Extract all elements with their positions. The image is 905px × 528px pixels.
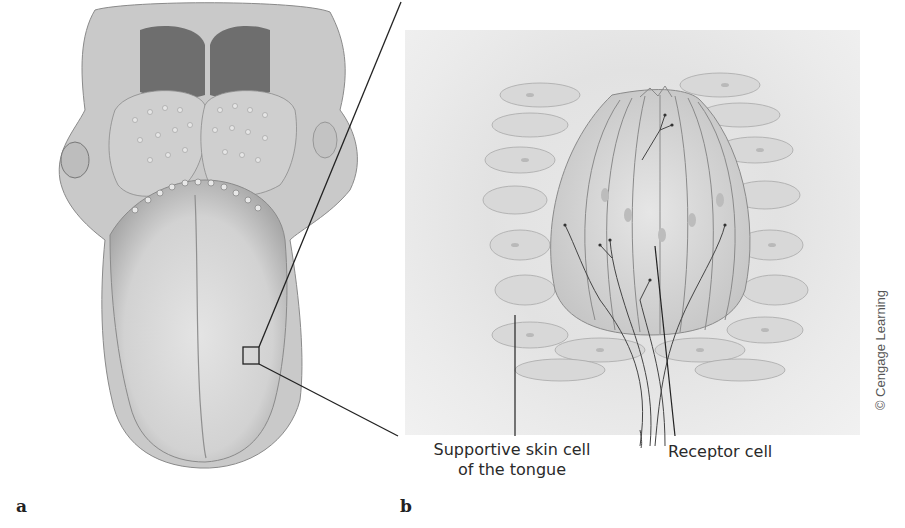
supportive-cell-label-line1: Supportive skin cell	[432, 440, 592, 460]
panel-letter-b: b	[400, 496, 412, 516]
panel-letter-a: a	[16, 496, 27, 516]
supportive-cell-label: Supportive skin cell of the tongue	[432, 440, 592, 480]
tongue-illustration	[59, 3, 357, 468]
copyright-credit: © Cengage Learning	[870, 265, 890, 435]
supportive-cell-label-line2: of the tongue	[432, 460, 592, 480]
copyright-credit-text: © Cengage Learning	[873, 290, 888, 410]
receptor-cell-label: Receptor cell	[668, 442, 772, 462]
taste-bud-illustration	[483, 73, 808, 446]
